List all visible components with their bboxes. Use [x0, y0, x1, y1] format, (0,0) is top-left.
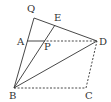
segment-be	[14, 25, 55, 88]
point-label-a: A	[16, 36, 25, 47]
point-label-c: C	[85, 90, 93, 101]
geometry-diagram: QEAPDBC	[0, 0, 111, 102]
segment-bd	[14, 41, 97, 88]
point-label-p: P	[44, 41, 51, 52]
segment-cd-dashed	[86, 41, 97, 88]
segment-qd	[34, 18, 97, 41]
point-label-q: Q	[27, 3, 35, 14]
segment-qb	[14, 18, 34, 88]
segments	[14, 18, 97, 88]
point-label-e: E	[54, 12, 61, 23]
point-label-d: D	[99, 36, 107, 47]
point-labels: QEAPDBC	[9, 3, 107, 101]
point-label-b: B	[9, 90, 16, 101]
